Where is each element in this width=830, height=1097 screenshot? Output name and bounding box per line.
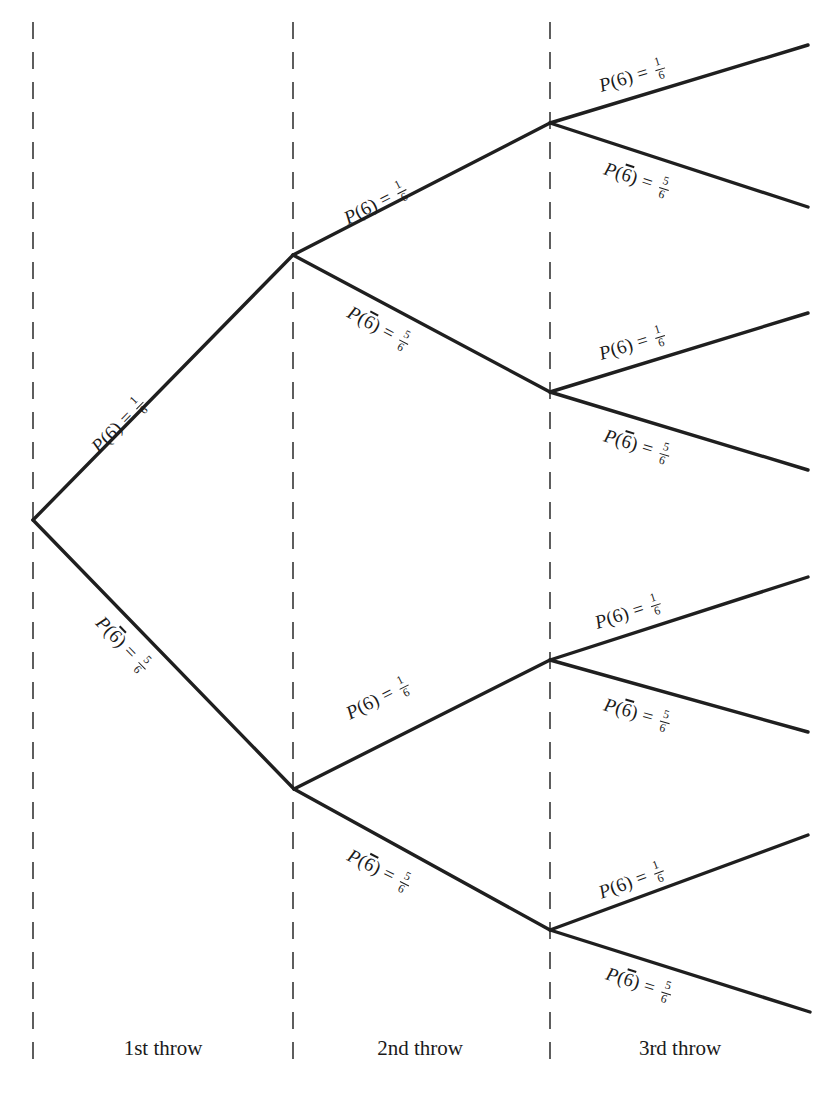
branch-b3-nnn bbox=[550, 930, 810, 1012]
stage-caption-stage-2: 2nd throw bbox=[377, 1038, 463, 1059]
branch-b2-n6 bbox=[294, 660, 550, 789]
branch-b3-nn6 bbox=[550, 835, 808, 930]
branch-b1-n6 bbox=[33, 520, 294, 789]
equals-sign: = bbox=[630, 597, 647, 620]
branch-b1-6 bbox=[33, 255, 293, 520]
equals-sign: = bbox=[639, 170, 656, 193]
equals-sign: = bbox=[639, 436, 656, 459]
equals-sign: = bbox=[634, 61, 651, 84]
branch-b3-n6n bbox=[550, 660, 808, 732]
branch-b3-6nn bbox=[550, 392, 808, 470]
probability-tree-diagram: P(6)=16P(6)=56P(6)=16P(6)=56P(6)=16P(6)=… bbox=[0, 0, 830, 1097]
branch-b2-nn bbox=[294, 789, 550, 930]
equals-sign: = bbox=[633, 865, 651, 888]
branch-b3-666 bbox=[550, 45, 808, 123]
stage-caption-stage-3: 3rd throw bbox=[639, 1038, 721, 1059]
tree-canvas bbox=[0, 0, 830, 1097]
equals-sign: = bbox=[380, 862, 399, 886]
equals-sign: = bbox=[640, 704, 656, 727]
branch-b3-n66 bbox=[550, 577, 808, 660]
equals-sign: = bbox=[641, 975, 658, 998]
equals-sign: = bbox=[379, 320, 399, 344]
branch-b3-6n6 bbox=[550, 313, 808, 392]
branch-b2-66 bbox=[293, 123, 550, 255]
equals-sign: = bbox=[634, 329, 651, 352]
branch-b3-66n bbox=[550, 123, 808, 207]
stage-divider-group bbox=[33, 22, 550, 1062]
branch-line-group bbox=[33, 45, 810, 1012]
stage-caption-stage-1: 1st throw bbox=[124, 1038, 203, 1059]
branch-b2-6n bbox=[293, 255, 550, 392]
